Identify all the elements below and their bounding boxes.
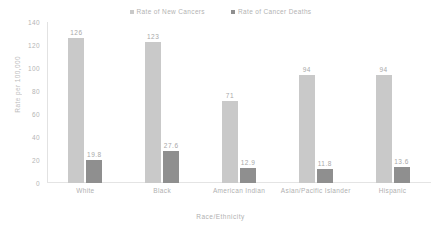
bar-value-label: 71 [226,92,234,99]
x-axis-category-label: Hispanic [354,187,431,196]
y-axis-tick-label: 120 [28,42,47,49]
bar-group: 7112.9 [201,22,278,183]
x-axis-category-label: White [47,187,124,196]
legend-swatch-icon [231,10,235,14]
bar-slot: 12.9 [240,22,256,183]
bar-value-label: 13.6 [394,158,409,165]
legend-label-cancer-deaths: Rate of Cancer Deaths [238,8,311,15]
y-axis-tick-label: 0 [36,180,47,187]
bar-value-label: 11.8 [318,160,332,167]
bar-slot: 27.6 [163,22,179,183]
bar-group: 12619.8 [47,22,124,183]
y-axis-tick-label: 60 [32,111,47,118]
bar-value-label: 123 [147,33,159,40]
bar-value-label: 94 [303,66,311,73]
bar-group: 9413.6 [354,22,431,183]
y-axis-tick-label: 80 [32,88,47,95]
bar-cancer-deaths[interactable]: 13.6 [394,167,410,183]
bar-group: 9411.8 [277,22,354,183]
legend-item-cancer-deaths[interactable]: Rate of Cancer Deaths [231,8,311,15]
bar-slot: 19.8 [86,22,102,183]
y-axis-title: Rate per 100,000 [14,56,28,113]
bar-cancer-deaths[interactable]: 27.6 [163,151,179,183]
bar-value-label: 94 [379,66,387,73]
bar-slot: 126 [68,22,84,183]
x-axis-category-label: Black [124,187,201,196]
legend-item-new-cancers[interactable]: Rate of New Cancers [130,8,205,15]
x-axis-category-label: Asian/Pacific Islander [277,187,354,196]
bar-value-label: 27.6 [164,142,179,149]
bar-group: 12327.6 [124,22,201,183]
y-axis-tick-label: 140 [28,19,47,26]
bar-slot: 123 [145,22,161,183]
bar-new-cancers[interactable]: 94 [299,75,315,183]
x-axis-title: Race/Ethnicity [0,213,441,220]
y-axis-tick-label: 40 [32,134,47,141]
bar-slot: 11.8 [317,22,333,183]
bar-cancer-deaths[interactable]: 11.8 [317,169,333,183]
bar-cancer-deaths[interactable]: 19.8 [86,160,102,183]
bar-cancer-deaths[interactable]: 12.9 [240,168,256,183]
bar-chart: Rate of New Cancers Rate of Cancer Death… [0,0,441,232]
bar-value-label: 126 [70,29,82,36]
bar-value-label: 19.8 [87,151,102,158]
bar-slot: 94 [376,22,392,183]
bar-groups: 12619.812327.67112.99411.89413.6 [47,22,431,183]
x-axis-category-label: American Indian [201,187,278,196]
bar-slot: 94 [299,22,315,183]
y-axis-tick-label: 20 [32,157,47,164]
chart-legend: Rate of New Cancers Rate of Cancer Death… [0,8,441,15]
legend-label-new-cancers: Rate of New Cancers [137,8,205,15]
x-axis-category-labels: WhiteBlackAmerican IndianAsian/Pacific I… [47,187,431,196]
plot-area: 140120100806040200 12619.812327.67112.99… [47,22,431,183]
bar-value-label: 12.9 [241,159,256,166]
bar-new-cancers[interactable]: 94 [376,75,392,183]
bar-new-cancers[interactable]: 71 [222,101,238,183]
bar-slot: 71 [222,22,238,183]
bar-new-cancers[interactable]: 123 [145,42,161,183]
y-axis-tick-label: 100 [28,65,47,72]
legend-swatch-icon [130,10,134,14]
bar-slot: 13.6 [394,22,410,183]
bar-new-cancers[interactable]: 126 [68,38,84,183]
